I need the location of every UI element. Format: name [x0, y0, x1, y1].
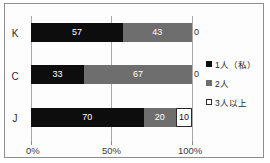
- bar-segment-label: 0: [194, 70, 199, 79]
- legend-item-3[interactable]: 3人以上: [206, 96, 270, 108]
- x-axis-label-50: 50%: [102, 145, 121, 156]
- bar-segment[interactable]: 57: [31, 23, 123, 42]
- chart-legend: 1人（私） 2人 3人以上: [206, 58, 270, 115]
- bar-segment-label: 70: [82, 113, 92, 122]
- legend-item-1[interactable]: 1人（私）: [206, 58, 270, 70]
- legend-swatch-icon: [206, 80, 212, 86]
- bar-segment-label: 20: [155, 113, 165, 122]
- bar-segment[interactable]: 10: [176, 108, 192, 127]
- bar-segment[interactable]: 67: [84, 65, 192, 84]
- category-label-j: J: [5, 113, 25, 124]
- bar-segment-label: 33: [53, 70, 63, 79]
- bar-segment-label: 43: [152, 28, 162, 37]
- legend-item-label: 1人（私）: [215, 58, 256, 70]
- legend-item-label: 3人以上: [215, 96, 247, 108]
- bar-row-j: 70 20 10: [31, 108, 192, 127]
- legend-item-2[interactable]: 2人: [206, 77, 270, 89]
- bar-segment-label: 10: [179, 113, 189, 122]
- bar-segment[interactable]: 20: [144, 108, 176, 127]
- category-label-c: C: [5, 71, 25, 82]
- bar-segment-label: 57: [72, 28, 82, 37]
- bar-segment[interactable]: 33: [31, 65, 84, 84]
- plot-area: 57 43 0 33 67 0 70 20: [31, 16, 193, 141]
- category-label-k: K: [5, 28, 25, 39]
- bar-row-k: 57 43 0: [31, 23, 192, 42]
- bar-row-c: 33 67 0: [31, 65, 192, 84]
- bar-segment[interactable]: 43: [123, 23, 192, 42]
- bar-segment: 0: [192, 65, 194, 84]
- legend-swatch-icon: [206, 61, 212, 67]
- chart-frame: 57 43 0 33 67 0 70 20: [4, 3, 264, 158]
- x-axis-label-0: 0%: [26, 145, 40, 156]
- bar-segment-label: 67: [133, 70, 143, 79]
- x-axis-label-100: 100%: [178, 145, 202, 156]
- legend-swatch-icon: [206, 99, 212, 105]
- bar-segment[interactable]: 70: [31, 108, 144, 127]
- bar-segment: 0: [192, 23, 194, 42]
- legend-item-label: 2人: [215, 77, 229, 89]
- bar-segment-label: 0: [194, 28, 199, 37]
